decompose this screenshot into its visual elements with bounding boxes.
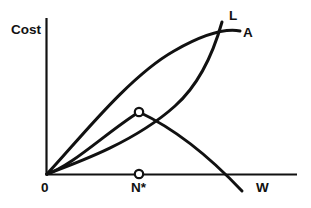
curve-l-label: L bbox=[229, 8, 237, 23]
curve-a-label: A bbox=[243, 25, 253, 40]
figure-canvas: Cost 0 N* W L A bbox=[0, 0, 311, 208]
origin-label: 0 bbox=[41, 180, 49, 195]
x-axis-label: W bbox=[256, 180, 269, 195]
peak-marker-icon bbox=[135, 108, 143, 116]
n-star-label: N* bbox=[131, 180, 147, 195]
cost-vs-w-diagram: Cost 0 N* W L A bbox=[0, 0, 311, 208]
n-star-axis-marker-icon bbox=[135, 170, 143, 178]
y-axis-label: Cost bbox=[11, 22, 42, 37]
